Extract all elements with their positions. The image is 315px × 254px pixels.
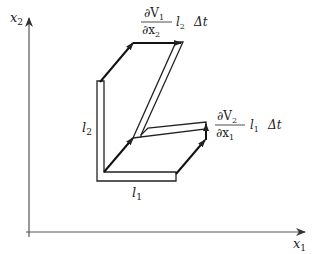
translation-arrow-top [100, 43, 133, 82]
top-annotation: ∂V1 ∂x2 l2 Δt [141, 6, 208, 39]
svg-text:∂V1: ∂V1 [144, 6, 164, 22]
translation-arrow-corner [104, 138, 133, 172]
svg-text:l1: l1 [250, 118, 259, 134]
right-annotation: ∂V2 ∂x1 l1 Δt [215, 109, 282, 142]
svg-text:∂x1: ∂x1 [216, 126, 234, 142]
deformed-joint [133, 137, 141, 138]
svg-text:∂V2: ∂V2 [217, 109, 237, 125]
y-axis-label: x2 [10, 10, 23, 27]
svg-text:∂x2: ∂x2 [142, 23, 160, 39]
deformed-strip-l2 [133, 42, 183, 138]
fluid-element-deformation-diagram: x2 x1 l2 l1 ∂V1 ∂x2 l2 Δt ∂V2 ∂x1 l1 Δt [0, 0, 315, 254]
svg-text:Δt: Δt [267, 118, 282, 132]
translation-arrow-right [176, 140, 205, 174]
deformed-strip-l1 [141, 122, 206, 137]
x-axis-label: x1 [293, 236, 306, 253]
svg-text:Δt: Δt [193, 15, 208, 29]
length-label-l2: l2 [82, 120, 92, 137]
length-label-l1: l1 [132, 185, 142, 202]
svg-text:l2: l2 [176, 15, 185, 31]
